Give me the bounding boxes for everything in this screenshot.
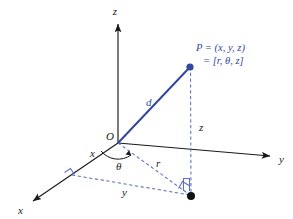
- theta-label: θ: [116, 160, 122, 172]
- point-p-label-line1: P = (x, y, z): [195, 42, 245, 54]
- z-axis-label: z: [112, 5, 118, 17]
- segment-d: [118, 67, 190, 143]
- cylindrical-coordinates-diagram: z y x x O θ r d z y P = (x, y, z) = [r, …: [0, 0, 293, 219]
- distance-segment-group: [118, 67, 190, 143]
- x-axis-label: x: [17, 204, 23, 216]
- x-projection-label: x: [89, 147, 95, 159]
- z-height-label: z: [198, 121, 204, 133]
- point-p-marker: [186, 63, 193, 70]
- point-p-label-line2: = [r, θ, z]: [203, 55, 244, 66]
- y-projection-label: y: [121, 186, 127, 198]
- dashed-y-projection: [72, 175, 190, 195]
- r-label: r: [156, 157, 161, 169]
- x-axis-line: [33, 143, 118, 201]
- d-label: d: [146, 96, 152, 108]
- right-angle-markers-group: [65, 169, 190, 192]
- origin-label: O: [106, 130, 114, 142]
- theta-arc-arrowhead: [126, 151, 132, 156]
- point-projection-marker: [187, 192, 195, 200]
- dashed-z-height: [191, 67, 192, 194]
- theta-arc: [101, 151, 131, 159]
- figure-canvas: z y x x O θ r d z y P = (x, y, z) = [r, …: [0, 0, 293, 219]
- y-axis-label: y: [278, 153, 284, 165]
- y-axis-line: [118, 143, 270, 156]
